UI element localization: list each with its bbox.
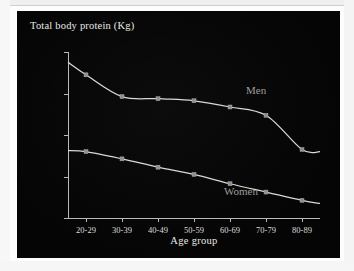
plot-area: 68101214 20-2930-3940-4950-5960-6970-798… <box>68 52 320 218</box>
data-point-marker <box>300 148 304 152</box>
series-line-men <box>68 62 320 152</box>
x-tick-label: 70-79 <box>256 225 276 235</box>
y-axis-title: Total body protein (Kg) <box>30 20 134 31</box>
x-tick-mark <box>266 218 267 222</box>
series-line-women <box>68 151 320 204</box>
chart-figure: Total body protein (Kg) 68101214 20-2930… <box>0 0 354 271</box>
scan-edge-left <box>0 0 10 271</box>
x-tick-label: 80-89 <box>292 225 312 235</box>
x-tick-label: 20-29 <box>76 225 96 235</box>
x-tick-mark <box>302 218 303 222</box>
data-point-marker <box>156 165 160 169</box>
data-point-marker <box>228 105 232 109</box>
x-axis-title: Age group <box>68 235 320 246</box>
scan-rule-line <box>8 5 348 6</box>
data-point-marker <box>156 97 160 101</box>
data-point-marker <box>120 95 124 99</box>
series-label-men: Men <box>246 84 266 96</box>
data-point-marker <box>84 150 88 154</box>
x-tick-label: 40-49 <box>148 225 168 235</box>
x-tick-label: 50-59 <box>184 225 204 235</box>
x-tick-mark <box>122 218 123 222</box>
x-tick-label: 60-69 <box>220 225 240 235</box>
scan-edge-bottom <box>0 261 354 271</box>
series-curves <box>68 52 320 218</box>
x-tick-mark <box>230 218 231 222</box>
data-point-marker <box>264 190 268 194</box>
data-point-marker <box>120 157 124 161</box>
y-tick-mark <box>64 218 68 219</box>
data-point-marker <box>84 73 88 77</box>
data-point-marker <box>192 172 196 176</box>
x-tick-mark <box>158 218 159 222</box>
chart-panel: Total body protein (Kg) 68101214 20-2930… <box>17 11 340 258</box>
x-tick-label: 30-39 <box>112 225 132 235</box>
scan-edge-right <box>344 0 354 271</box>
x-tick-mark <box>86 218 87 222</box>
series-label-women: Women <box>224 185 258 197</box>
y-axis-title-text: Total body protein (Kg) <box>30 20 134 31</box>
data-point-marker <box>264 113 268 117</box>
data-point-marker <box>300 198 304 202</box>
x-tick-mark <box>194 218 195 222</box>
data-point-marker <box>192 99 196 103</box>
